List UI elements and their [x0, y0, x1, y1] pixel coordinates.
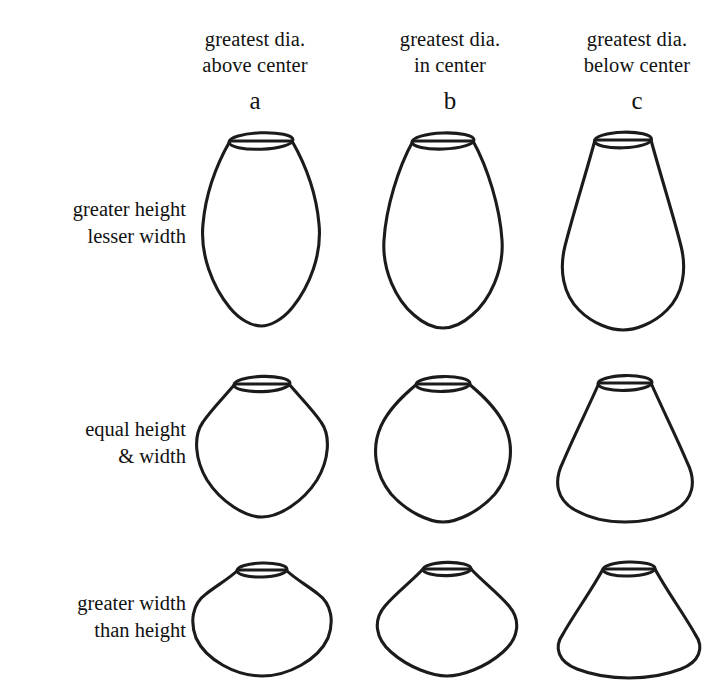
row-label-r3-line1: greater width: [77, 592, 186, 614]
vessel-3c: [551, 558, 707, 682]
vessel-2b: [371, 372, 517, 524]
row-label-r2-line2: & width: [0, 443, 186, 470]
column-header-c: greatest dia. below center: [542, 26, 717, 78]
row-label-equal-height-and-width: equal height & width: [0, 416, 186, 469]
row-label-r1-line2: lesser width: [0, 223, 186, 250]
column-header-b: greatest dia. in center: [355, 26, 545, 78]
column-letter-b: b: [355, 88, 545, 113]
column-header-b-line1: greatest dia.: [400, 28, 500, 50]
column-header-c-line1: greatest dia.: [587, 28, 687, 50]
vessel-2c: [551, 372, 701, 524]
vessel-3b: [371, 558, 523, 682]
column-letter-a: a: [160, 88, 350, 113]
row-label-greater-height-lesser-width: greater height lesser width: [0, 196, 186, 249]
vessel-1c: [557, 128, 689, 338]
column-letter-c: c: [542, 88, 717, 113]
column-header-b-line2: in center: [355, 52, 545, 78]
vessel-1b: [378, 128, 508, 338]
row-label-r3-line2: than height: [0, 617, 186, 644]
row-label-r2-line1: equal height: [85, 418, 186, 440]
column-header-c-line2: below center: [542, 52, 717, 78]
vessel-1a: [196, 128, 326, 338]
row-label-greater-width-than-height: greater width than height: [0, 590, 186, 643]
row-label-r1-line1: greater height: [73, 198, 186, 220]
vessel-2a: [191, 372, 333, 524]
column-header-a-line1: greatest dia.: [205, 28, 305, 50]
column-header-a: greatest dia. above center: [160, 26, 350, 78]
column-header-a-line2: above center: [160, 52, 350, 78]
vessel-typology-figure: greatest dia. above center greatest dia.…: [0, 0, 717, 695]
vessel-3a: [186, 558, 338, 682]
